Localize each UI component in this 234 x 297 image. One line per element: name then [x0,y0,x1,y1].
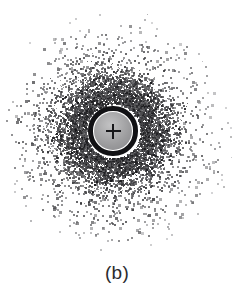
diffraction-figure: (b) [0,0,234,297]
diffraction-pattern-plate [0,0,234,252]
center-cross-marker [106,124,121,139]
beam-stop [88,106,138,156]
cross-vertical-bar [112,124,114,139]
figure-caption: (b) [0,263,234,282]
